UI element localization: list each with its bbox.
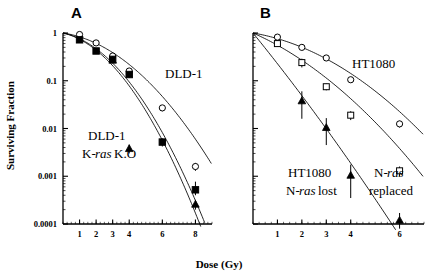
marker-open-circle (274, 34, 280, 40)
x-tick-label: 4 (349, 229, 354, 239)
marker-filled-triangle (192, 200, 200, 207)
ht1080-lost-line2-post: lost (318, 183, 337, 198)
fit-curve-b-1 (253, 33, 423, 176)
ht1080-label: HT1080 (352, 56, 395, 71)
y-tick-label: 0.1 (46, 76, 57, 86)
dld1-ko-line1: DLD-1 (88, 128, 126, 143)
marker-open-circle (159, 105, 165, 111)
y-tick-label: 0.0001 (34, 219, 57, 229)
marker-filled-square (159, 139, 165, 145)
x-tick-label: 3 (324, 229, 328, 239)
x-tick-label: 8 (193, 229, 197, 239)
ht1080-lost-line1: HT1080 (288, 165, 331, 180)
x-tick-label: 1 (275, 229, 279, 239)
marker-filled-triangle (347, 171, 355, 178)
marker-filled-square (93, 48, 99, 54)
y-tick-label: 0.001 (38, 171, 57, 181)
dld1-label: DLD-1 (165, 66, 203, 81)
y-axis-title-group: Surviving Fraction (4, 81, 16, 170)
y-tick-label: 0.01 (42, 124, 57, 134)
marker-open-circle (396, 121, 402, 127)
marker-open-square (348, 112, 354, 118)
nras-replaced-line1-pre: N- (374, 165, 388, 180)
panel-label-b: B (260, 4, 271, 21)
dld1-ko-line2-pre: K- (82, 146, 96, 161)
fit-curve-b-0 (253, 33, 423, 134)
x-tick-label: 6 (397, 229, 401, 239)
dld1-ko-line2-ital: ras (95, 146, 112, 161)
x-tick-label: 6 (160, 229, 164, 239)
ht1080-lost-line2-ital: ras (299, 183, 316, 198)
nras-replaced-line1-ital: ras (387, 165, 404, 180)
x-tick-label: 3 (111, 229, 115, 239)
marker-filled-square (192, 187, 198, 193)
survival-curve-figure: 10.10.010.0010.0001Surviving FractionDos… (0, 0, 439, 280)
fit-curve-a-1 (63, 33, 205, 223)
y-axis-title: Surviving Fraction (4, 81, 16, 170)
dld1-ko-line2-post: K.O (114, 146, 136, 161)
panel-label-a: A (71, 4, 82, 21)
marker-open-square (323, 84, 329, 90)
x-tick-label: 2 (300, 229, 304, 239)
marker-open-circle (323, 55, 329, 61)
x-tick-label: 1 (77, 229, 81, 239)
marker-filled-square (76, 37, 82, 43)
fit-curve-a-2 (63, 33, 201, 227)
marker-open-circle (192, 163, 198, 169)
x-tick-label: 4 (127, 229, 132, 239)
fit-curve-a-0 (63, 33, 211, 164)
marker-filled-triangle (298, 97, 306, 104)
marker-open-square (274, 41, 280, 47)
y-tick-label: 1 (53, 28, 57, 38)
marker-open-square (299, 60, 305, 66)
marker-filled-triangle (396, 216, 404, 223)
marker-open-circle (93, 40, 99, 46)
marker-filled-square (126, 71, 132, 77)
nras-replaced-line2: replaced (369, 183, 414, 198)
x-tick-label: 2 (94, 229, 98, 239)
marker-open-circle (348, 77, 354, 83)
x-axis-title: Dose (Gy) (196, 258, 243, 271)
marker-open-circle (299, 44, 305, 50)
ht1080-lost-line2-pre: N- (286, 183, 300, 198)
